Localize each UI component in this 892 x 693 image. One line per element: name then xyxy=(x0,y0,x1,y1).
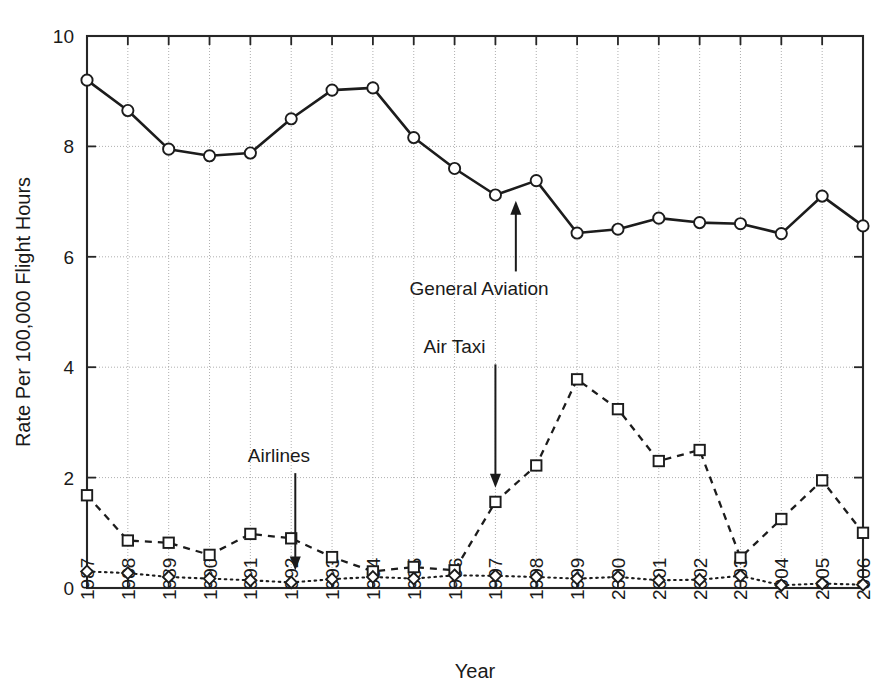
rate-per-flight-hours-line-chart: 0246810 19871988198919901991199219931994… xyxy=(0,0,892,693)
data-point-marker xyxy=(857,220,868,231)
chart-container: 0246810 19871988198919901991199219931994… xyxy=(0,0,892,693)
data-point-marker xyxy=(694,217,705,228)
annotation-label-airlines: Airlines xyxy=(248,445,310,466)
y-axis-tick-label: 10 xyxy=(53,26,74,47)
data-point-marker xyxy=(163,144,174,155)
data-point-marker xyxy=(531,175,542,186)
data-point-marker xyxy=(409,562,419,572)
data-point-marker xyxy=(163,538,173,548)
data-point-marker xyxy=(408,132,419,143)
data-point-marker xyxy=(531,460,541,470)
data-point-marker xyxy=(776,228,787,239)
data-point-marker xyxy=(858,528,868,538)
data-point-marker xyxy=(123,535,133,545)
y-axis-tick-label: 8 xyxy=(63,136,74,157)
x-axis-tick-label: 1987 xyxy=(77,558,98,600)
data-point-marker xyxy=(817,190,828,201)
annotation-label-air-taxi: Air Taxi xyxy=(424,336,486,357)
y-axis-title: Rate Per 100,000 Flight Hours xyxy=(12,177,34,447)
data-point-marker xyxy=(245,529,255,539)
x-axis-title: Year xyxy=(455,660,496,682)
data-point-marker xyxy=(326,84,337,95)
data-point-marker xyxy=(572,374,582,384)
data-point-marker xyxy=(286,113,297,124)
y-axis-tick-label: 6 xyxy=(63,247,74,268)
data-point-marker xyxy=(327,552,337,562)
data-point-marker xyxy=(654,456,664,466)
data-point-marker xyxy=(490,189,501,200)
annotation-label-general-aviation: General Aviation xyxy=(410,278,549,299)
data-point-marker xyxy=(776,514,786,524)
data-point-marker xyxy=(653,213,664,224)
y-axis-tick-label: 4 xyxy=(63,357,74,378)
data-point-marker xyxy=(613,404,623,414)
y-axis-tick-label: 2 xyxy=(63,468,74,489)
data-point-marker xyxy=(204,550,214,560)
data-point-marker xyxy=(694,445,704,455)
data-point-marker xyxy=(735,552,745,562)
data-point-marker xyxy=(245,147,256,158)
data-point-marker xyxy=(81,75,92,86)
data-point-marker xyxy=(612,224,623,235)
data-point-marker xyxy=(735,218,746,229)
data-point-marker xyxy=(490,497,500,507)
data-point-marker xyxy=(82,490,92,500)
data-point-marker xyxy=(449,163,460,174)
data-point-marker xyxy=(122,105,133,116)
data-point-marker xyxy=(367,82,378,93)
data-point-marker xyxy=(572,227,583,238)
data-point-marker xyxy=(204,150,215,161)
data-point-marker xyxy=(817,475,827,485)
y-axis-tick-label: 0 xyxy=(63,578,74,599)
